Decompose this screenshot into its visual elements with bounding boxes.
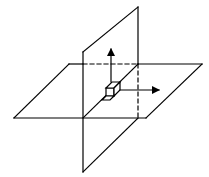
- perpendicular-planes-diagram: [0, 0, 209, 177]
- element-box-icon: [102, 82, 120, 100]
